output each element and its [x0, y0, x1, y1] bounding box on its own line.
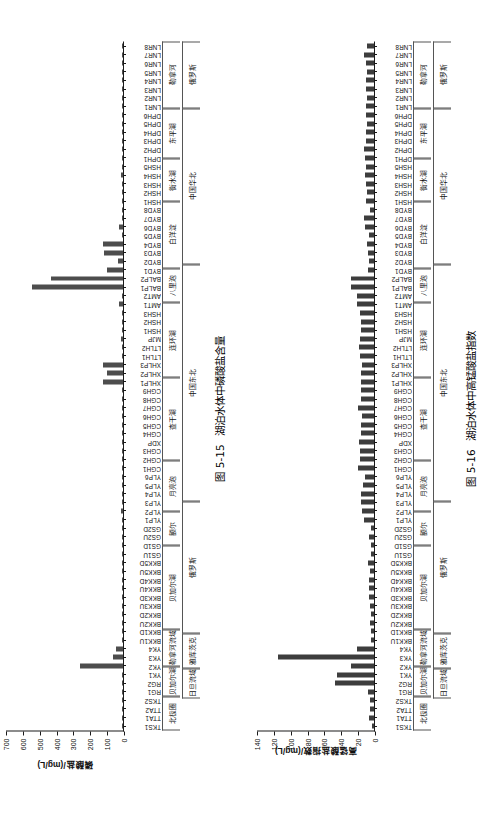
site-label-cell: CGH6 — [376, 411, 412, 420]
bar-cell — [257, 515, 374, 524]
site-label-cell: CGH7 — [376, 403, 412, 412]
lake-group-label-text: 连环湖 — [167, 329, 177, 350]
site-label: BYD7 — [376, 215, 412, 221]
lake-group-label: 八里泡 — [162, 268, 180, 302]
site-label: LTLH1 — [125, 352, 161, 358]
site-label: YK2 — [125, 662, 161, 668]
bar-cell — [6, 515, 123, 524]
bar-cell — [6, 317, 123, 326]
bar — [351, 663, 374, 668]
site-label-cell: DPH4 — [376, 127, 412, 136]
site-label-cell: DPH6 — [125, 110, 161, 119]
bar-cell — [6, 644, 123, 653]
site-label: BKK2D — [125, 611, 161, 617]
bar — [113, 654, 123, 659]
site-label-cell: HSH3 — [376, 308, 412, 317]
site-label-cell: YK2 — [125, 661, 161, 670]
bar-cell — [257, 248, 374, 257]
bar-cell — [6, 566, 123, 575]
lake-group-label: 衡水湖 — [162, 159, 180, 202]
bar — [361, 422, 374, 427]
site-label-cell: RG2 — [125, 678, 161, 687]
bar-cell — [257, 446, 374, 455]
bar-cell — [6, 480, 123, 489]
bar — [103, 241, 123, 246]
region-group-label: 日旦流域 — [433, 668, 451, 698]
y-axis-tick — [375, 731, 376, 735]
lake-group-label-text: 查干湖 — [418, 408, 428, 429]
site-label-cell: YLP4 — [125, 489, 161, 498]
bar — [360, 456, 374, 461]
bar — [365, 224, 374, 229]
site-label-cell: BKK5U — [376, 566, 412, 575]
y-axis-tick — [341, 731, 342, 735]
region-group-label: 俄罗斯 — [433, 41, 451, 108]
y-axis-tick — [40, 731, 41, 735]
site-label-cell: HSH2 — [125, 317, 161, 326]
region-group-label: 中国东北 — [433, 264, 451, 501]
bar-cell — [6, 127, 123, 136]
lake-group-label-text: 月亮泡 — [167, 475, 177, 496]
site-label-cell: AMT2 — [125, 291, 161, 300]
bar-cell — [6, 558, 123, 567]
site-label-cell: YK4 — [376, 644, 412, 653]
bar-cell — [6, 343, 123, 352]
bar-cell — [6, 308, 123, 317]
site-label: DPH3 — [125, 137, 161, 143]
site-label: GS1U — [125, 550, 161, 556]
lake-group-label-text: 贝加尔湖 — [167, 667, 177, 695]
bar-cell — [6, 248, 123, 257]
bar-cell — [257, 377, 374, 386]
site-label-cell: DPH5 — [376, 119, 412, 128]
lake-group-label-text: 八里泡 — [418, 275, 428, 296]
site-label-cell: GS1D — [125, 541, 161, 550]
bar — [364, 52, 374, 57]
site-label: DPH6 — [376, 111, 412, 117]
bar-cell — [257, 291, 374, 300]
site-label-cell: YK4 — [125, 644, 161, 653]
site-label: YK3 — [376, 654, 412, 660]
y-axis-tick-label: 0 — [121, 738, 128, 742]
site-label: RG1 — [125, 688, 161, 694]
lake-group-label-text: 衡水湖 — [167, 169, 177, 190]
bar-cell — [6, 523, 123, 532]
bar-cell — [257, 386, 374, 395]
bar-cell — [257, 256, 374, 265]
site-label-cell: CGH9 — [125, 386, 161, 395]
bar-cell — [6, 532, 123, 541]
bar — [116, 646, 123, 651]
bar — [357, 646, 374, 651]
group-band-lakes-permanganate: 北极圈贝加尔湖勒拿河流域贝加尔湖额尔月亮泡查干湖连环湖八里泡白洋淀衡水湖东平湖勒… — [413, 41, 431, 730]
site-label: DPH2 — [376, 146, 412, 152]
site-label: TKS2 — [125, 697, 161, 703]
site-label-cell: AMT2 — [376, 291, 412, 300]
site-label: HSH3 — [376, 309, 412, 315]
site-label-cell: LNR1 — [376, 102, 412, 111]
bar-cell — [257, 558, 374, 567]
bar-cell — [257, 489, 374, 498]
figure-5-16-rotated-canvas: 高锰酸盐指数/(mg/L) 020406080100120140 TKS1TTA… — [251, 0, 501, 817]
site-label: BKK2D — [376, 611, 412, 617]
site-label: AMT2 — [125, 292, 161, 298]
bar-cell — [257, 627, 374, 636]
y-axis-tick-label: 100 — [287, 738, 294, 750]
plot-area-permanganate: 高锰酸盐指数/(mg/L) 020406080100120140 — [257, 41, 375, 731]
site-label: YK2 — [376, 662, 412, 668]
site-label: BYD7 — [125, 215, 161, 221]
bar — [367, 189, 374, 194]
site-label: GS2U — [376, 533, 412, 539]
site-label: LNR4 — [125, 77, 161, 83]
site-label-cell: TKS1 — [376, 721, 412, 730]
site-label: BALP1 — [125, 283, 161, 289]
site-label: BKK2U — [125, 619, 161, 625]
site-label-cell: GS1U — [125, 549, 161, 558]
site-label-cell: HSH1 — [376, 325, 412, 334]
site-label: GS1D — [125, 542, 161, 548]
site-label: HSH1 — [376, 197, 412, 203]
site-label-cell: YK2 — [376, 661, 412, 670]
bar-cell — [6, 498, 123, 507]
site-label-cell: CGH3 — [376, 446, 412, 455]
bar-cell — [257, 420, 374, 429]
site-label: YLP6 — [125, 473, 161, 479]
site-label: DPH1 — [125, 154, 161, 160]
